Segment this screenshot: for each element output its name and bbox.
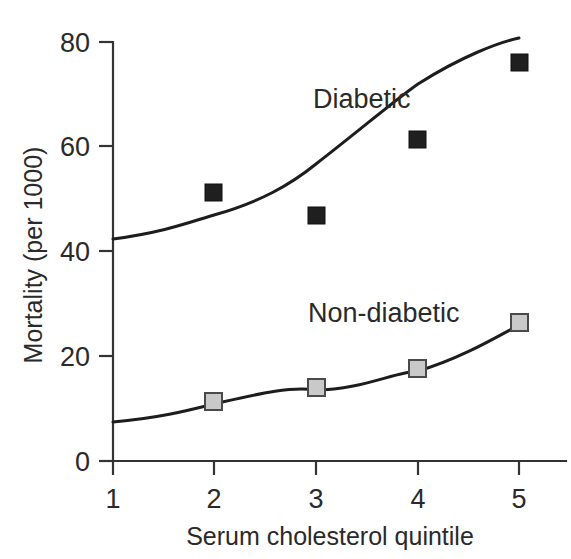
diabetic-series-label: Diabetic <box>313 84 411 114</box>
diabetic-point-q4 <box>409 131 426 148</box>
y-tick-label-80: 80 <box>60 28 90 58</box>
chart-figure: 80 60 40 20 0 1 2 3 4 5 Serum cholestero… <box>0 0 571 559</box>
x-axis-title: Serum cholesterol quintile <box>186 522 474 550</box>
nondiabetic-point-q2 <box>205 393 222 410</box>
x-tick-label-2: 2 <box>206 484 221 514</box>
nondiabetic-point-q5 <box>511 314 528 331</box>
y-tick-label-60: 60 <box>60 132 90 162</box>
diabetic-point-q5 <box>511 54 528 71</box>
diabetic-series-markers <box>205 54 528 224</box>
y-axis-title: Mortality (per 1000) <box>19 147 47 364</box>
x-tick-label-5: 5 <box>511 484 526 514</box>
diabetic-point-q2 <box>205 184 222 201</box>
mortality-cholesterol-scatter-chart: 80 60 40 20 0 1 2 3 4 5 Serum cholestero… <box>0 0 571 559</box>
nondiabetic-point-q4 <box>409 360 426 377</box>
y-tick-label-0: 0 <box>75 447 90 477</box>
x-axis <box>113 461 566 475</box>
x-tick-label-3: 3 <box>308 484 323 514</box>
y-tick-label-40: 40 <box>60 237 90 267</box>
nondiabetic-point-q3 <box>308 379 325 396</box>
y-axis <box>99 42 113 461</box>
y-tick-label-20: 20 <box>60 342 90 372</box>
nondiabetic-trend-curve <box>113 325 519 422</box>
diabetic-point-q3 <box>308 207 325 224</box>
x-tick-label-1: 1 <box>105 484 120 514</box>
x-tick-label-4: 4 <box>410 484 425 514</box>
nondiabetic-series-label: Non-diabetic <box>308 298 460 328</box>
